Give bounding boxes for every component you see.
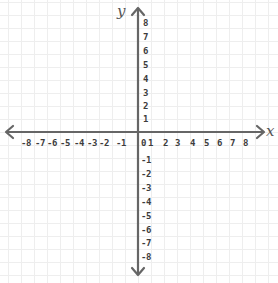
y-tick-label: 7 (143, 32, 148, 42)
y-tick-label: -3 (141, 183, 151, 193)
y-tick-label: 6 (143, 46, 148, 56)
y-tick-label: 8 (143, 18, 148, 28)
y-tick-label: 5 (143, 60, 148, 70)
x-tick-label: 1 (148, 138, 153, 148)
y-tick-label: 3 (143, 88, 148, 98)
x-tick-label: 4 (190, 138, 195, 148)
y-tick-label: -2 (141, 169, 151, 179)
x-tick-label: 3 (175, 138, 180, 148)
x-tick-label: -8 (21, 138, 31, 148)
y-tick-label: -5 (141, 211, 151, 221)
y-tick-label: -7 (141, 238, 151, 248)
x-tick-label: -2 (99, 138, 109, 148)
x-tick-label: 2 (163, 138, 168, 148)
y-tick-label: -8 (141, 252, 151, 262)
x-tick-label: -7 (35, 138, 45, 148)
x-axis-name: x (266, 122, 274, 140)
y-tick-label: -6 (141, 225, 151, 235)
x-tick-label: -4 (74, 138, 84, 148)
y-tick-label: -4 (141, 197, 151, 207)
x-tick-label: -3 (87, 138, 97, 148)
x-tick-label: -5 (60, 138, 70, 148)
x-tick-label: 7 (230, 138, 235, 148)
y-axis-name: y (117, 2, 125, 20)
origin-label: 0 (141, 138, 146, 148)
x-tick-label: -6 (47, 138, 57, 148)
y-tick-label: 2 (143, 101, 148, 111)
y-tick-label: 4 (143, 74, 148, 84)
y-tick-label: -1 (141, 155, 151, 165)
x-tick-label: -1 (116, 138, 126, 148)
coordinate-plane: y x -8 -7 -6 -5 -4 -3 -2 -1 0 1 2 3 4 5 … (0, 0, 278, 283)
x-tick-label: 6 (217, 138, 222, 148)
y-tick-label: 1 (143, 114, 148, 124)
x-tick-label: 5 (204, 138, 209, 148)
x-tick-label: 8 (243, 138, 248, 148)
